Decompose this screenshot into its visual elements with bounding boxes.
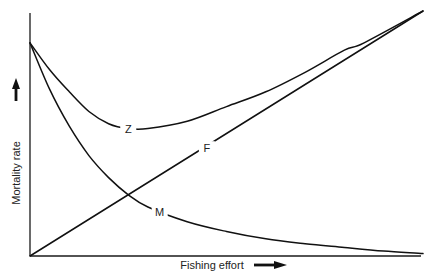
cut-off-caption (10, 272, 430, 277)
y-axis-label-group: Mortality rate (10, 78, 22, 205)
up-arrow-shaft (15, 88, 18, 101)
y-axis-label: Mortality rate (10, 141, 22, 205)
curve-f (30, 11, 423, 256)
x-axis-label-group: Fishing effort (180, 259, 287, 271)
curve-m (30, 43, 423, 254)
curve-label-f: F (203, 142, 210, 154)
curves (30, 11, 423, 256)
x-axis-label: Fishing effort (180, 259, 243, 271)
right-arrow-shaft (254, 264, 274, 267)
right-arrow-icon (274, 261, 287, 269)
curve-z (30, 11, 423, 129)
mortality-chart: ZFM Mortality rate Fishing effort (0, 0, 431, 277)
up-arrow-icon (12, 78, 20, 89)
curve-label-m: M (155, 206, 164, 218)
curve-label-z: Z (125, 123, 132, 135)
